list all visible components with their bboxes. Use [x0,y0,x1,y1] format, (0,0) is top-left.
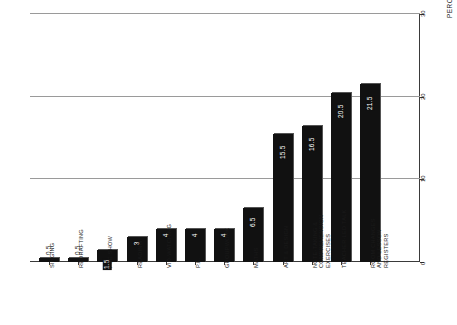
category-label-text: GROUPWORK [224,228,230,268]
y-tick-label-0: 0 [420,262,426,265]
plot-area: 0.50.51.534446.515.516.520.521.5 [30,14,420,262]
bar-series: 0.50.51.534446.515.516.520.521.5 [30,14,420,262]
y-axis: PERCENTAGE OF TIMETABLED WEEK 0102030 [420,0,457,325]
y-tick-label-10: 10 [420,176,426,183]
bar-value-label: 4 [191,232,200,238]
category-label-text: REDRAFTING [78,229,84,268]
y-tick-label-20: 20 [420,93,426,100]
bar-value-label: 15.5 [278,145,287,160]
bar-chart: 0.50.51.534446.515.516.520.521.5 SINGING… [0,0,457,325]
category-label-text: NOTE-TAKING & COMPREHENSION EXERCISES [312,212,331,268]
category-axis-labels: SINGINGREDRAFTINGPSE SHOWREADINGVID-WATC… [30,266,420,325]
bar-value-label: 20.5 [337,103,346,118]
category-label-text: ART & DESIGN [283,226,289,268]
category-label-text: PSE SHOW [107,236,113,268]
category-label-text: READING [137,241,143,268]
bar-value-label: 6.5 [249,217,258,229]
y-axis-title: PERCENTAGE OF TIMETABLED WEEK [446,0,453,18]
category-label-text: TEACHER-LED TALK [341,209,347,268]
bar-value-label: 21.5 [366,95,375,110]
bar-value-label: 16.5 [308,136,317,151]
category-label-text: SINGING [49,243,55,268]
category-label-text: VID-WATCHING [166,224,172,268]
category-label-text: P.E. [195,257,201,268]
y-tick-label-30: 30 [420,10,426,17]
category-label-text: ROOM CHANGES AND LESSON REGISTERS [370,212,389,268]
category-label-text: MATHS [253,248,259,268]
